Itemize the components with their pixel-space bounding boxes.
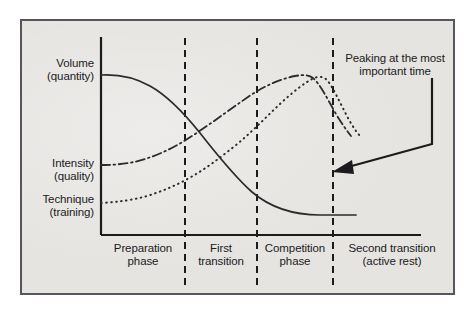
phase-label-competition-phase-line1: Competition: [265, 242, 325, 254]
phase-label-first-transition-line2: transition: [198, 255, 244, 267]
phase-label-second-transition-line1: Second transition: [348, 242, 435, 254]
axis-label-intensity-line1: Intensity: [52, 157, 94, 169]
phase-label-preparation-phase-line2: phase: [128, 255, 159, 267]
axis-label-volume: Volume(quantity): [14, 57, 94, 83]
figure-root: Volume(quantity) Intensity(quality) Tech…: [0, 0, 472, 313]
axis-label-technique: Technique(training): [8, 193, 94, 219]
phase-label-first-transition: Firsttransition: [185, 242, 257, 268]
phase-label-preparation-phase-line1: Preparation: [114, 242, 172, 254]
axis-label-intensity: Intensity(quality): [14, 157, 94, 183]
phase-label-competition-phase-line2: phase: [280, 255, 311, 267]
axis-label-technique-line2: (training): [50, 206, 94, 218]
phase-label-second-transition-line2: (active rest): [363, 255, 422, 267]
callout-annotation-line1: Peaking at the most: [345, 52, 445, 64]
axis-label-volume-line1: Volume: [56, 57, 94, 69]
axis-label-volume-line2: (quantity): [47, 70, 94, 82]
phase-label-preparation-phase: Preparationphase: [101, 242, 185, 268]
callout-annotation-text: Peaking at the mostimportant time: [337, 52, 453, 78]
callout-annotation-line2: important time: [359, 65, 430, 77]
phase-label-first-transition-line1: First: [210, 242, 232, 254]
phase-label-competition-phase: Competitionphase: [257, 242, 333, 268]
phase-label-second-transition: Second transition(active rest): [333, 242, 451, 268]
axis-label-intensity-line2: (quality): [54, 170, 94, 182]
axis-label-technique-line1: Technique: [42, 193, 94, 205]
